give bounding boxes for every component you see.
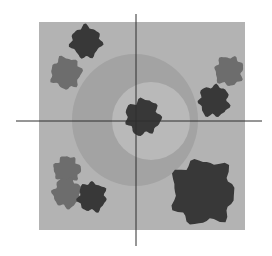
target-diagram — [0, 0, 272, 256]
